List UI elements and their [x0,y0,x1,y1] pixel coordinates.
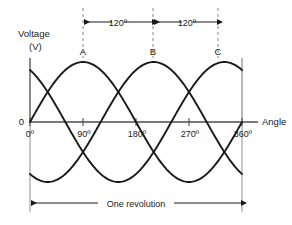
dimension-120-second: 120º [154,18,217,28]
dimension-120-first-label: 120º [109,18,128,28]
x-tick-label-270: 270º [181,129,200,139]
waveform-svg: 120º 120º A B C Voltage (V) [0,0,292,225]
revolution-label: One revolution [107,199,166,209]
three-phase-waveform-figure: 120º 120º A B C Voltage (V) [0,0,292,225]
peak-label-b: B [150,46,156,57]
peak-label-c: C [215,46,222,57]
peak-label-a: A [80,46,87,57]
x-tick-label-90: 90º [77,129,91,139]
dimension-120-first: 120º [84,18,152,28]
x-axis-label: Angle [262,116,286,127]
y-axis-label-line1: Voltage [18,28,50,39]
dimension-120-second-label: 120º [178,18,197,28]
dimension-one-revolution: One revolution [31,199,241,209]
origin-label: 0 [19,116,24,127]
y-axis-label-line2: (V) [29,41,42,52]
x-tick-label-0: 0º [26,129,35,139]
